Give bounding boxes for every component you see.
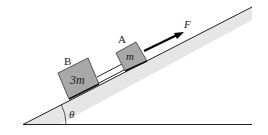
block-b-label: B bbox=[64, 55, 71, 67]
inclined-plane-diagram: θ 3m B m A F bbox=[0, 0, 268, 135]
block-a-label: A bbox=[118, 33, 126, 45]
force-arrow-head-icon bbox=[174, 32, 184, 39]
angle-label: θ bbox=[69, 108, 75, 120]
rope bbox=[97, 64, 122, 77]
block-a-mass-label: m bbox=[126, 50, 134, 62]
force-label: F bbox=[183, 18, 191, 30]
block-b-mass-label: 3m bbox=[69, 73, 85, 87]
